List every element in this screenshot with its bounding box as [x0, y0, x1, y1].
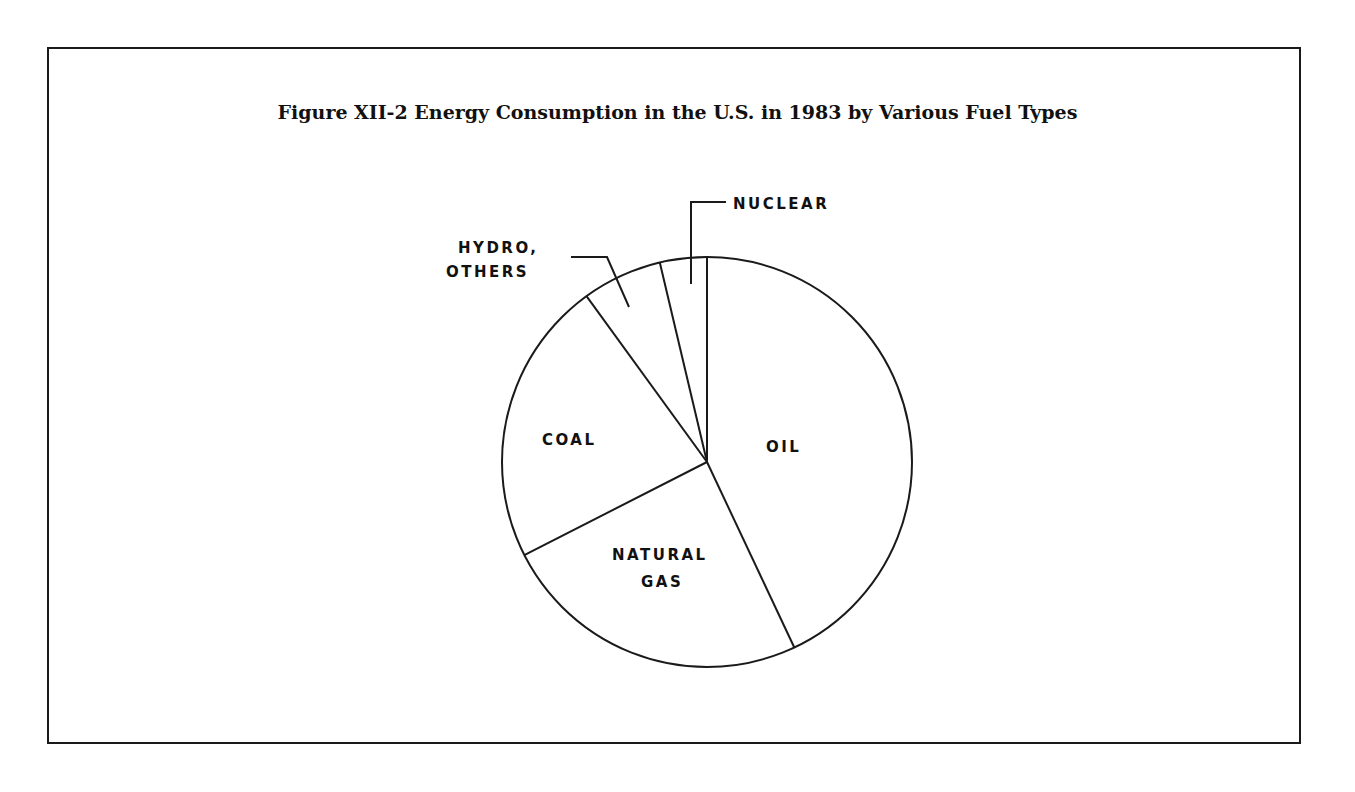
slice-boundary	[660, 263, 707, 463]
slice-boundary	[707, 462, 794, 648]
label-hydro-line1: HYDRO,	[458, 239, 539, 257]
label-oil: OIL	[766, 438, 801, 456]
label-nuclear: NUCLEAR	[733, 195, 829, 213]
pie-chart: OIL NATURAL GAS COAL HYDRO, OTHERS NUCLE…	[0, 0, 1355, 792]
slice-boundary	[587, 296, 708, 462]
label-coal: COAL	[542, 431, 597, 449]
slice-boundary	[524, 462, 707, 555]
leader-line-hydro	[571, 257, 629, 307]
leader-line-nuclear	[691, 202, 726, 284]
label-hydro-line2: OTHERS	[446, 263, 529, 281]
label-natural-gas-line1: NATURAL	[612, 546, 708, 564]
label-natural-gas-line2: GAS	[641, 573, 683, 591]
